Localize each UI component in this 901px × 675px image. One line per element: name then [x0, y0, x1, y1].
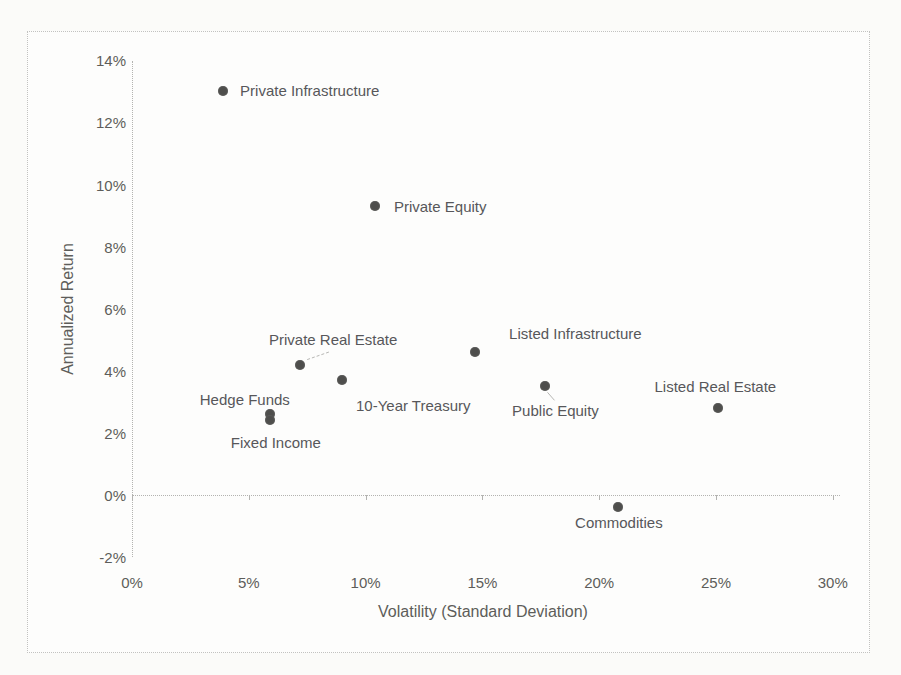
x-tick-label: 10% [351, 575, 381, 590]
x-tick-label: 20% [584, 575, 614, 590]
y-axis-line [132, 61, 133, 557]
x-tick-label: 30% [818, 575, 848, 590]
x-tick-mark [249, 495, 250, 500]
risk-return-scatter-chart: -2%0%2%4%6%8%10%12%14% 0%5%10%15%20%25%3… [0, 0, 901, 675]
data-point-label: Private Equity [394, 198, 487, 215]
y-tick-label: 10% [62, 177, 126, 192]
y-tick-label: 2% [62, 425, 126, 440]
x-tick-mark [599, 495, 600, 500]
x-tick-label: 25% [701, 575, 731, 590]
data-point-label: Private Real Estate [269, 330, 397, 347]
x-tick-label: 0% [121, 575, 143, 590]
x-axis-line [132, 495, 840, 496]
x-tick-mark [716, 495, 717, 500]
data-point-label: 10-Year Treasury [356, 397, 471, 414]
data-point-label: Private Infrastructure [240, 82, 379, 99]
x-tick-mark [833, 495, 834, 500]
data-point-label: Hedge Funds [200, 391, 290, 408]
y-tick-label: 0% [62, 488, 126, 503]
y-axis-title: Annualized Return [59, 243, 77, 375]
data-point-label: Commodities [575, 514, 663, 531]
data-point [295, 360, 305, 370]
x-tick-label: 5% [238, 575, 260, 590]
y-tick-label: 12% [62, 115, 126, 130]
data-point-label: Listed Infrastructure [509, 325, 642, 342]
x-tick-mark [132, 495, 133, 500]
data-point-label: Listed Real Estate [654, 378, 776, 395]
x-tick-mark [482, 495, 483, 500]
chart-frame [27, 31, 870, 653]
x-axis-title: Volatility (Standard Deviation) [378, 603, 588, 621]
x-tick-mark [366, 495, 367, 500]
y-tick-label: 14% [62, 53, 126, 68]
x-tick-label: 15% [467, 575, 497, 590]
data-point-label: Public Equity [512, 402, 599, 419]
y-tick-label: -2% [62, 550, 126, 565]
data-point-label: Fixed Income [231, 434, 321, 451]
